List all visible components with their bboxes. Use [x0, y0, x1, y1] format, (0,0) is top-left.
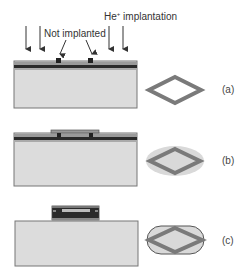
panel-label-c: (c) [222, 235, 234, 246]
not-implanted-arrows [60, 40, 92, 54]
he-implantation-label: He+ implantation [104, 11, 177, 22]
cross-section-b [14, 130, 137, 186]
panel-label-b: (b) [222, 155, 234, 166]
cross-section-c [15, 206, 138, 266]
cross-section-a [14, 58, 137, 108]
diamond-c [147, 226, 204, 254]
diamond-b [146, 146, 204, 176]
not-implanted-label: Not implanted [44, 28, 106, 39]
panel-label-a: (a) [222, 84, 234, 95]
diamond-a [149, 77, 201, 103]
process-diagram [0, 0, 251, 273]
